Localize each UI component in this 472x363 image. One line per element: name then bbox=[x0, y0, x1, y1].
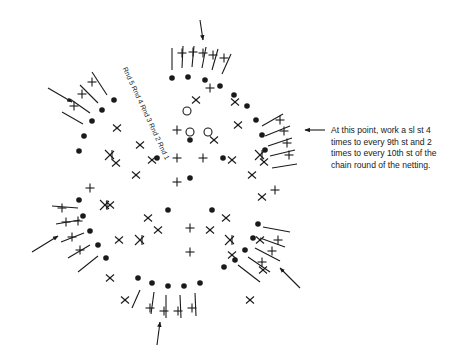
annotation-line-2: times to every 9th st and 2 bbox=[331, 137, 472, 149]
annotation-note: At this point, work a sl st 4 times to e… bbox=[331, 125, 472, 171]
annotation-line-3: times to every 10th st of the bbox=[331, 148, 472, 160]
annotation-line-1: At this point, work a sl st 4 bbox=[331, 125, 472, 137]
annotation-line-4: chain round of the netting. bbox=[331, 160, 472, 172]
crochet-chart bbox=[0, 0, 472, 363]
